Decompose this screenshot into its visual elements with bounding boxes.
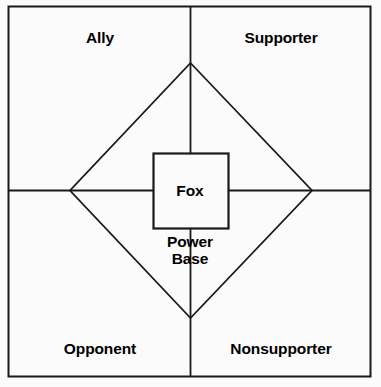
quadrant-label-opponent: Opponent: [64, 341, 136, 358]
power-base-caption: Power Base: [167, 234, 213, 267]
quadrant-label-ally: Ally: [86, 30, 114, 47]
power-base-caption-line1: Power: [167, 234, 213, 251]
quadrant-label-nonsupporter: Nonsupporter: [230, 341, 331, 358]
power-base-caption-line2: Base: [167, 251, 213, 268]
quadrant-label-supporter: Supporter: [244, 30, 317, 47]
diagram-canvas: Ally Supporter Opponent Nonsupporter Fox…: [0, 0, 381, 387]
center-box-label: Fox: [176, 183, 203, 200]
